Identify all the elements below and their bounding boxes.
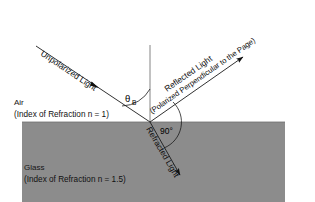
diagram-canvas: Unpolarized Light Reflected Light (Polar… (0, 0, 315, 202)
air-medium-name: Air (14, 98, 24, 107)
optics-diagram-svg: Unpolarized Light Reflected Light (Polar… (0, 0, 315, 202)
air-medium-index-label: (Index of Refraction n = 1) (14, 110, 109, 119)
reflected-ray-polarization-note: (Polarized Perpendicular to the Page) (148, 36, 257, 116)
glass-medium-name: Glass (24, 163, 44, 172)
right-angle-label: 90° (160, 126, 173, 136)
brewster-angle-symbol: θ (125, 93, 130, 104)
incident-ray-label: Unpolarized Light (39, 48, 99, 93)
glass-medium-index-label: (Index of Refraction n = 1.5) (24, 175, 126, 184)
brewster-angle-subscript: B (132, 99, 136, 106)
